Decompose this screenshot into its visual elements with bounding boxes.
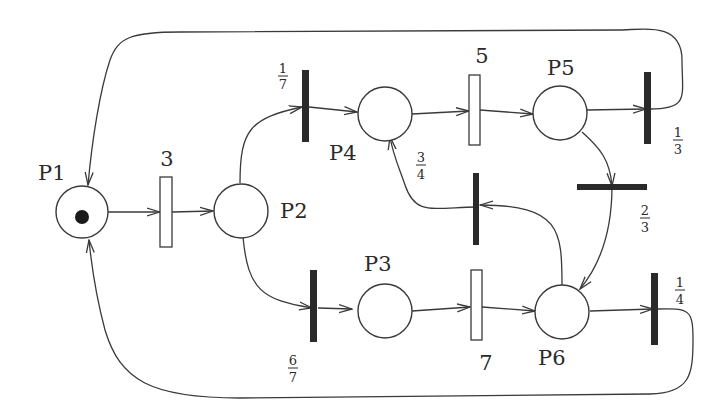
- arc-t3-p2: [172, 211, 213, 212]
- arc-p5-t13: [587, 109, 646, 110]
- weight-numerator: 1: [279, 61, 287, 76]
- place-p1: P1: [38, 161, 108, 238]
- weight-denominator: 4: [676, 292, 684, 307]
- place-label: P5: [547, 56, 575, 80]
- transition-3: 3: [160, 147, 174, 247]
- place-p6: P6: [535, 285, 589, 370]
- arc-t17-p4: [309, 107, 357, 112]
- weight-denominator: 3: [641, 220, 649, 235]
- transition-label: 5: [475, 44, 488, 68]
- place-p4: P4: [329, 87, 412, 165]
- weight-denominator: 7: [279, 77, 287, 92]
- weight-denominator: 7: [289, 370, 297, 385]
- transition-3-4: 3 4: [416, 150, 479, 245]
- arc-t34-p4: [390, 137, 476, 208]
- weight-denominator: 3: [674, 142, 682, 157]
- token: [75, 210, 89, 224]
- arc-p2-t17: [240, 107, 302, 183]
- transition-2-3: 2 3: [577, 184, 650, 235]
- transition-6-7: 6 7: [288, 270, 317, 385]
- weight-numerator: 1: [676, 275, 684, 290]
- transition-label: 7: [479, 351, 492, 375]
- arc-t23-p6: [580, 186, 612, 289]
- transition-5: 5: [469, 44, 489, 145]
- arcs: [88, 29, 693, 398]
- weight-numerator: 2: [641, 203, 649, 218]
- arc-p2-t67: [243, 237, 312, 308]
- weight-numerator: 6: [289, 353, 297, 368]
- place-label: P6: [538, 346, 566, 370]
- arc-p5-t23: [582, 132, 612, 186]
- arc-t67-p3: [318, 308, 352, 309]
- transition-1-7: 1 7: [278, 61, 309, 142]
- transition-label: 3: [160, 147, 173, 171]
- transition-1-3: 1 3: [644, 72, 683, 157]
- transition-7: 7: [471, 270, 493, 375]
- arc-p6-t34: [480, 205, 562, 285]
- place-p3: P3: [358, 252, 412, 338]
- petri-net-diagram: P1 P2 P3 P4 P5 P6 3 5 7 1 7 6: [0, 0, 727, 419]
- arc-t7-p6: [482, 307, 535, 311]
- arc-p3-t7: [412, 307, 470, 311]
- weight-numerator: 3: [417, 150, 425, 165]
- weight-denominator: 4: [417, 167, 425, 182]
- place-label: P3: [364, 252, 392, 276]
- arc-p6-t14: [590, 309, 653, 311]
- place-p2: P2: [214, 184, 308, 238]
- arc-t5-p5: [480, 110, 533, 114]
- place-label: P1: [38, 161, 66, 185]
- arc-p4-t5: [412, 111, 469, 114]
- place-label: P4: [329, 141, 357, 165]
- place-label: P2: [280, 199, 308, 223]
- weight-numerator: 1: [674, 125, 682, 140]
- place-p5: P5: [533, 56, 587, 140]
